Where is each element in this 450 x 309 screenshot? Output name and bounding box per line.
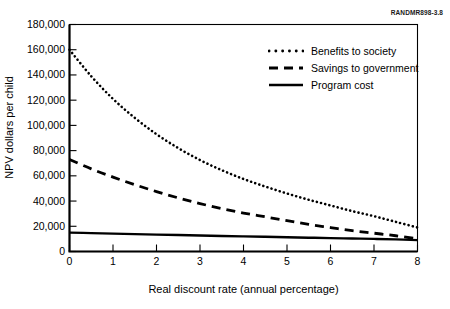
legend-label: Benefits to society: [311, 45, 396, 57]
legend-label: Program cost: [311, 79, 373, 91]
legend-line-sample: [268, 79, 304, 91]
legend-line-sample: [268, 62, 304, 74]
legend-line-sample: [268, 45, 304, 57]
legend-label: Savings to government: [311, 62, 418, 74]
series-line: [70, 233, 418, 241]
figure-container: RANDMR898-3.8 NPV dollars per child Real…: [0, 0, 450, 309]
legend-item: Benefits to society: [268, 42, 418, 59]
legend-item: Program cost: [268, 76, 418, 93]
legend-item: Savings to government: [268, 59, 418, 76]
series-line: [70, 159, 418, 238]
chart-legend: Benefits to societySavings to government…: [268, 42, 418, 93]
